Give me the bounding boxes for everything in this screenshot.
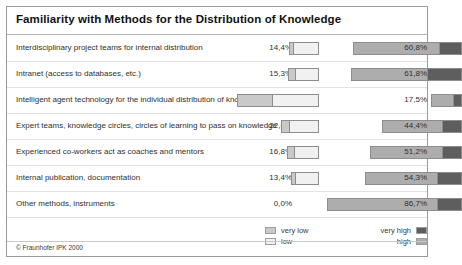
bar-segment — [295, 172, 319, 185]
bar-segment — [431, 94, 453, 107]
row-label: Intelligent agent technology for the ind… — [16, 95, 264, 104]
row-value-right: 86,7% — [397, 199, 427, 208]
row-value-right: 54,3% — [397, 173, 427, 182]
legend-swatch-very-low — [265, 227, 276, 234]
bar-segment — [272, 94, 319, 107]
bar-left — [289, 42, 319, 55]
chart-title-bar: Familiarity with Methods for the Distrib… — [7, 7, 427, 35]
row-separator — [7, 217, 427, 218]
bar-left — [288, 68, 319, 81]
row-value-right: 61,8% — [397, 69, 427, 78]
bar-segment — [294, 146, 319, 159]
copyright-text: © Fraunhofer IPK 2000 — [16, 244, 83, 251]
row-value-right: 44,4% — [397, 121, 427, 130]
row-value-left: 0,0% — [258, 199, 292, 208]
row-value-right: 51,2% — [397, 147, 427, 156]
chart-row: Interdisciplinary project teams for inte… — [7, 36, 427, 62]
chart-row: Expert teams, knowledge circles, circles… — [7, 114, 427, 140]
bar-segment — [437, 198, 462, 211]
bar-left — [237, 94, 319, 107]
legend-label: very low — [281, 226, 309, 235]
page-title: Familiarity with Methods for the Distrib… — [16, 13, 341, 25]
bar-segment — [288, 68, 295, 81]
chart-row: Other methods, instruments0,0%86,7% — [7, 192, 427, 218]
bar-segment — [287, 146, 294, 159]
row-label: Experienced co-workers act as coaches an… — [16, 147, 204, 156]
bar-segment — [289, 120, 319, 133]
row-value-left: 14,4% — [258, 43, 292, 52]
legend-item-very-low: very low — [265, 225, 309, 236]
chart-footer: © Fraunhofer IPK 2000 — [7, 241, 427, 256]
bar-left — [291, 172, 319, 185]
bar-segment — [437, 172, 462, 185]
bar-segment — [281, 120, 289, 133]
chart-row: Internal publication, documentation13,4%… — [7, 166, 427, 192]
bar-left — [287, 146, 319, 159]
row-label: Other methods, instruments — [16, 199, 115, 208]
bar-right — [327, 198, 462, 211]
bar-segment — [237, 94, 272, 107]
chart-panel: Familiarity with Methods for the Distrib… — [6, 6, 428, 257]
row-label: Interdisciplinary project teams for inte… — [16, 43, 203, 52]
row-value-left: 13,4% — [258, 173, 292, 182]
bar-segment — [442, 120, 462, 133]
bar-segment — [295, 68, 319, 81]
chart-row: Intelligent agent technology for the ind… — [7, 88, 427, 114]
row-value-right: 17,5% — [397, 95, 427, 104]
bar-segment — [442, 146, 462, 159]
row-label: Expert teams, knowledge circles, circles… — [16, 121, 277, 130]
bar-segment — [439, 42, 462, 55]
row-value-left: 15,3% — [258, 69, 292, 78]
row-label: Intranet (access to databases, etc.) — [16, 69, 141, 78]
row-label: Internal publication, documentation — [16, 173, 140, 182]
row-value-right: 60,8% — [397, 43, 427, 52]
bar-right — [431, 94, 462, 107]
bar-segment — [427, 68, 462, 81]
chart-row: Intranet (access to databases, etc.)15,3… — [7, 62, 427, 88]
legend-label: very high — [381, 226, 411, 235]
legend-item-very-high: very high — [357, 225, 427, 236]
chart-rows: Interdisciplinary project teams for inte… — [7, 36, 427, 218]
bar-left — [281, 120, 319, 133]
legend-swatch-very-high — [416, 227, 427, 234]
bar-segment — [293, 42, 319, 55]
chart-row: Experienced co-workers act as coaches an… — [7, 140, 427, 166]
bar-segment — [453, 94, 462, 107]
